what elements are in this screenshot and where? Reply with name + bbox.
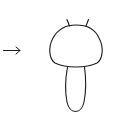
stem [66,67,86,112]
drawing-canvas [0,0,117,117]
antenna-right [86,20,89,27]
mushroom-figure-drawing [0,0,117,117]
arrow-right-icon [4,47,21,54]
antenna-left [67,20,70,27]
dome-cap [50,25,102,67]
